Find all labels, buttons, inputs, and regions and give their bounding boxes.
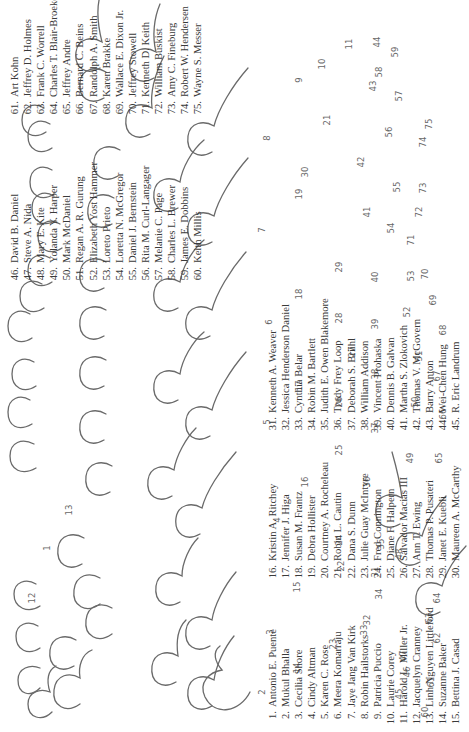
name-list-entry: 33.Cynthia Belar: [292, 298, 305, 434]
entry-name: Thomas P. Pusateri: [424, 480, 435, 561]
silhouette-number: 12: [27, 593, 37, 604]
name-list-entry: 10.Laurie Corey: [384, 608, 397, 728]
entry-name: Mary E. Kite: [35, 207, 46, 263]
name-list-entry: 11.Harold L. Miller Jr.: [397, 608, 410, 728]
silhouette-number: 7: [257, 227, 267, 232]
name-list-entry: 26.Salvador Macias III: [397, 462, 410, 582]
entry-name: Debra Hollister: [306, 495, 317, 561]
entry-number: 4.: [305, 711, 318, 728]
entry-name: Karen C. Rose: [319, 645, 330, 707]
entry-number: 29.: [436, 565, 449, 582]
entry-number: 19.: [305, 565, 318, 582]
silhouette-number: 1: [42, 545, 52, 550]
entry-name: Kristin A. Ritchey: [267, 484, 278, 561]
entry-number: 58.: [165, 267, 178, 284]
entry-number: 55.: [126, 267, 139, 284]
name-list-entry: 40.Dennis B. Galvan: [384, 298, 397, 434]
entry-number: 13.: [423, 711, 436, 728]
entry-name: Rita M. Curl-Langager: [140, 166, 151, 263]
entry-name: Cynthia Belar: [293, 354, 304, 413]
entry-number: 61.: [8, 101, 21, 118]
entry-name: Thomas V. McGovern: [411, 319, 422, 413]
silhouette-number: 15: [292, 582, 302, 593]
silhouette-number: 41: [362, 207, 372, 218]
entry-number: 42.: [410, 417, 423, 434]
name-list-entry: 53.Loreto Prieto: [100, 162, 113, 284]
name-list-entry: 5.Karen C. Rose: [318, 608, 331, 728]
rotated-page: 1234567891112131415161718191021222324252…: [0, 0, 469, 732]
name-list-entry: 36.Trudy Frey Loop: [331, 298, 344, 434]
name-list-entry: 6.Meera Komarraju: [331, 608, 344, 728]
entry-number: 75.: [191, 101, 204, 118]
name-list-entry: 3.Cecilia Shore: [292, 608, 305, 728]
entry-name: Barry Anton: [424, 360, 435, 413]
name-list-entry: 71.Kenneth D. Keith: [139, 0, 152, 118]
silhouette-number: 55: [392, 182, 402, 193]
name-list-column-2: 16.Kristin A. Ritchey17.Jennifer J. Higa…: [266, 462, 462, 582]
entry-name: Robin M. Bartlett: [306, 338, 317, 413]
entry-number: 69.: [113, 101, 126, 118]
name-list-entry: 55.Daniel J. Bernstein: [126, 162, 139, 284]
silhouette-number: 70: [420, 269, 430, 280]
silhouette-number: 29: [334, 262, 344, 273]
name-list-entry: 67.Randolph A. Smith: [87, 0, 100, 118]
entry-number: 9.: [371, 711, 384, 728]
name-list-entry: 45.R. Eric Landrum: [449, 298, 462, 434]
entry-name: Wayne S. Messer: [192, 23, 203, 97]
entry-name: Charles L. Brewer: [166, 185, 177, 263]
entry-number: 74.: [178, 101, 191, 118]
entry-number: 17.: [279, 565, 292, 582]
entry-number: 5.: [318, 711, 331, 728]
entry-number: 24.: [371, 565, 384, 582]
entry-name: Jeffrey D. Holmes: [22, 19, 33, 97]
entry-number: 20.: [318, 565, 331, 582]
entry-name: Randolph A. Smith: [88, 15, 99, 97]
entry-name: Courtney A. Rocheleau: [319, 462, 330, 561]
entry-number: 16.: [266, 565, 279, 582]
name-list-entry: 12.Jacquelyn Cranney: [410, 608, 423, 728]
entry-number: 51.: [73, 267, 86, 284]
entry-number: 26.: [397, 565, 410, 582]
entry-name: Judith E. Owen Blakemore: [319, 298, 330, 413]
name-list-entry: 74.Robert W. Hendersen: [178, 0, 191, 118]
entry-number: 44.: [436, 417, 449, 434]
silhouette-number: 13: [64, 505, 74, 516]
entry-name: Fred Connington: [372, 489, 383, 561]
entry-name: Loretta N. McGregor: [114, 173, 125, 263]
name-list-entry: 35.Judith E. Owen Blakemore: [318, 298, 331, 434]
name-list-entry: 50.Mark McDaniel: [60, 162, 73, 284]
entry-name: Cindy Altman: [306, 647, 317, 707]
name-list-entry: 75.Wayne S. Messer: [191, 0, 204, 118]
entry-number: 49.: [47, 267, 60, 284]
entry-number: 38.: [358, 417, 371, 434]
entry-name: Frank C. Worrell: [35, 25, 46, 97]
entry-name: Harold L. Miller Jr.: [398, 624, 409, 707]
entry-number: 48.: [34, 267, 47, 284]
entry-name: Robin Hailstorks: [359, 635, 370, 707]
name-list-entry: 30.Maureen A. McCarthy: [449, 462, 462, 582]
name-list-entry: 15.Bettina J. Casad: [449, 608, 462, 728]
entry-number: 18.: [292, 565, 305, 582]
name-list-entry: 31.Kenneth A. Weaver: [266, 298, 279, 434]
entry-number: 7.: [345, 711, 358, 728]
entry-name: Robin L. Cautin: [332, 492, 343, 561]
entry-name: Mark McDaniel: [61, 195, 72, 263]
entry-name: Meera Komarraju: [332, 631, 343, 707]
name-list-entry: 47.Steve A. Nida: [21, 162, 34, 284]
entry-name: Martha S. Zlokovich: [398, 325, 409, 413]
entry-name: Amy C. Fineburg: [166, 23, 177, 97]
entry-number: 50.: [60, 267, 73, 284]
name-list-entry: 62.Jeffrey D. Holmes: [21, 0, 34, 118]
entry-number: 10.: [384, 711, 397, 728]
entry-name: Wallace E. Dixon Jr.: [114, 10, 125, 97]
name-list-column-5: 61.Art Kohn62.Jeffrey D. Holmes63.Frank …: [8, 0, 204, 118]
name-list-entry: 27.Ann T. Ewing: [410, 462, 423, 582]
name-list-entry: 20.Courtney A. Rocheleau: [318, 462, 331, 582]
entry-number: 28.: [423, 565, 436, 582]
name-list-entry: 41.Martha S. Zlokovich: [397, 298, 410, 434]
entry-name: Dana S. Dunn: [346, 501, 357, 561]
entry-name: Vincent Prohaska: [372, 339, 383, 413]
silhouette-number: 75: [424, 119, 434, 130]
name-list-entry: 49.Yolanda Y. Harper: [47, 162, 60, 284]
silhouette-number: 59: [390, 47, 400, 58]
